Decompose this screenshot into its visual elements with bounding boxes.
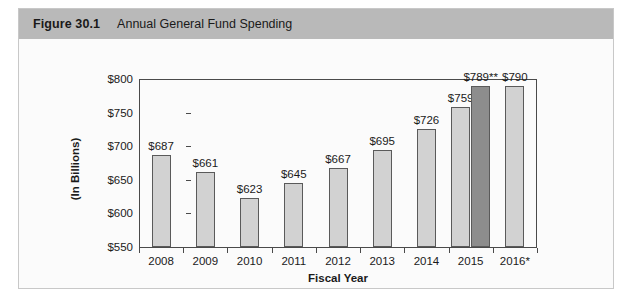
figure-frame: Figure 30.1 Annual General Fund Spending… (18, 8, 614, 289)
x-axis-tick-label: 2009 (193, 255, 219, 267)
bar-2013-enacted (373, 150, 392, 247)
x-axis-tick-mark (227, 248, 228, 253)
bar-2014-enacted (417, 129, 436, 247)
x-axis-tick-label: 2010 (237, 255, 263, 267)
bar-2015-enacted (451, 107, 470, 247)
bar-value-label: $790 (502, 71, 528, 83)
bar-chart: (In Billions) $550$600$650$700$750$800 $… (19, 39, 615, 289)
x-axis-tick-label: 2013 (369, 255, 395, 267)
bar-2015-estimate (471, 86, 490, 247)
bar-2009-enacted (196, 172, 215, 247)
x-axis-tick-mark (537, 248, 538, 253)
y-axis-tick-label: $750 (107, 107, 133, 119)
figure-title: Annual General Fund Spending (117, 17, 292, 31)
bar-value-label: $623 (237, 183, 263, 195)
bar-value-label: $667 (325, 153, 351, 165)
figure-number: Figure 30.1 (33, 17, 100, 31)
y-axis-tick-label: $600 (107, 207, 133, 219)
x-axis-tick-mark (404, 248, 405, 253)
y-axis-tick-label: $550 (107, 241, 133, 253)
bar-value-label: $789** (463, 71, 498, 83)
bar-value-label: $661 (193, 157, 219, 169)
bar-value-label: $695 (369, 135, 395, 147)
x-axis-tick-label: 2015 (458, 255, 484, 267)
x-axis-tick-label: 2008 (148, 255, 174, 267)
x-axis-tick-label: 2014 (414, 255, 440, 267)
y-axis-tick-label: $700 (107, 140, 133, 152)
x-axis-tick-label: 2016* (500, 255, 530, 267)
x-axis-tick-mark (316, 248, 317, 253)
bar-2011-enacted (284, 183, 303, 247)
x-axis-title: Fiscal Year (139, 272, 537, 284)
bar-value-label: $759 (448, 92, 474, 104)
bar-value-label: $645 (281, 168, 307, 180)
bar-2008-enacted (152, 155, 171, 247)
bar-2016-enacted (505, 86, 524, 247)
figure-header: Figure 30.1 Annual General Fund Spending (19, 9, 613, 39)
bar-value-label: $687 (148, 140, 174, 152)
bar-value-label: $726 (414, 114, 440, 126)
x-axis-tick-mark (272, 248, 273, 253)
y-axis-tick-labels: $550$600$650$700$750$800 (71, 39, 133, 289)
x-axis-tick-mark (493, 248, 494, 253)
y-axis-tick-label: $650 (107, 174, 133, 186)
bar-2012-enacted (329, 168, 348, 247)
x-axis-tick-mark (449, 248, 450, 253)
x-axis-tick-mark (183, 248, 184, 253)
axis-bottom-line (139, 247, 537, 248)
x-axis-tick-mark (360, 248, 361, 253)
x-axis-tick-label: 2011 (281, 255, 306, 267)
x-axis-tick-mark (139, 248, 140, 253)
plot-area: $687$661$623$645$667$695$726$759$789**$7… (139, 79, 537, 247)
y-axis-tick-label: $800 (107, 73, 133, 85)
x-axis-tick-label: 2012 (325, 255, 351, 267)
bar-2010-enacted (240, 198, 259, 247)
